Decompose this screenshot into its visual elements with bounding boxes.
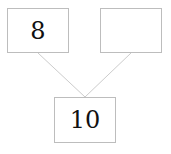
tree-diagram: 8 10 (0, 0, 171, 154)
node-left: 8 (7, 8, 69, 53)
node-root: 10 (54, 97, 116, 143)
edge-right-to-root (85, 53, 131, 97)
node-right-empty (100, 8, 162, 53)
node-left-label: 8 (30, 17, 45, 45)
node-root-label: 10 (70, 106, 101, 134)
edge-left-to-root (38, 53, 85, 97)
